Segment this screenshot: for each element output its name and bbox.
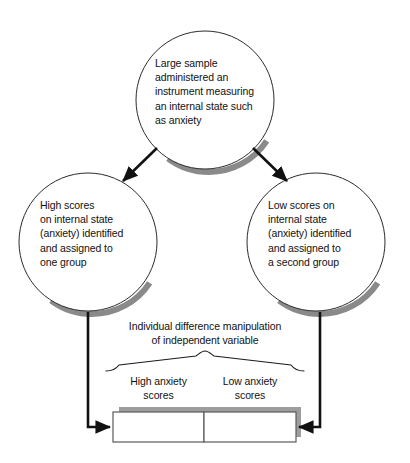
diagram-canvas: Large sample administered an instrument … <box>0 0 410 463</box>
sample-circle-label: Large sample administered an instrument … <box>155 56 267 127</box>
low-scores-circle-label: Low scores on internal state (anxiety) i… <box>268 198 380 269</box>
top-to-left-arrow <box>123 148 157 181</box>
high-anxiety-group-label: High anxiety scores <box>113 375 204 402</box>
manipulation-label: Individual difference manipulation of in… <box>105 320 305 347</box>
high-anxiety-box[interactable] <box>113 412 204 442</box>
low-anxiety-group-label: Low anxiety scores <box>204 375 296 402</box>
low-anxiety-box[interactable] <box>204 412 296 442</box>
group-brace <box>106 351 304 371</box>
high-scores-circle-label: High scores on internal state (anxiety) … <box>40 198 152 269</box>
top-to-right-arrow <box>253 148 287 181</box>
